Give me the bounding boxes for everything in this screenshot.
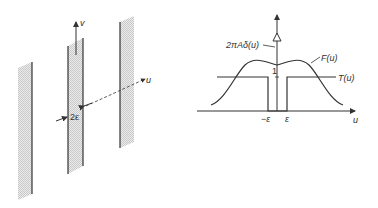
left-strips-diagram: v u 2ε — [18, 16, 151, 200]
T-label: T(u) — [338, 73, 355, 83]
one-label: 1 — [272, 66, 277, 76]
delta-label: 2πAδ(u) — [225, 40, 259, 50]
gap-label: 2ε — [70, 112, 79, 122]
figure-canvas: v u 2ε u 2πAδ(u) T(u) F(u) 1 −ε ε — [0, 0, 378, 208]
delta-arrowhead — [273, 33, 281, 41]
u-axis-label: u — [146, 75, 151, 85]
F-label: F(u) — [321, 53, 338, 63]
strip-right — [120, 16, 134, 148]
eps-label: ε — [285, 114, 290, 124]
gap-arrow — [56, 117, 67, 121]
strip-center — [68, 38, 83, 174]
u-axis-arrow — [86, 79, 145, 106]
v-axis-label: v — [80, 18, 85, 28]
strip-left — [18, 62, 32, 200]
u-axis-label-right: u — [353, 115, 358, 125]
neg-eps-label: −ε — [261, 114, 271, 124]
right-plot: u 2πAδ(u) T(u) F(u) 1 −ε ε — [197, 15, 358, 125]
